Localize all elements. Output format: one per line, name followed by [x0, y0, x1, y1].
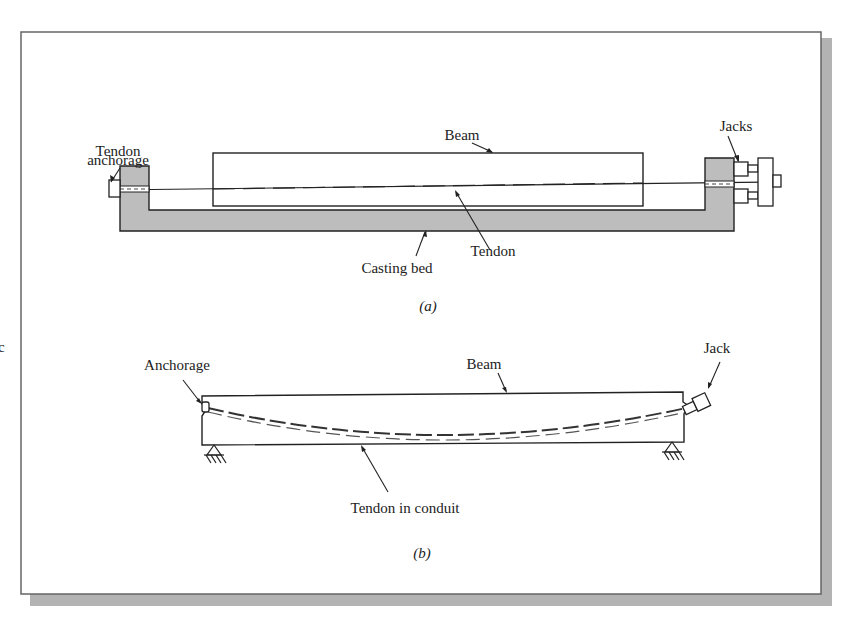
prestressing-figure: c Tendon anchorage	[0, 0, 861, 636]
tendon-anchorage	[109, 180, 120, 197]
label-tendon-anchorage-2: anchorage	[87, 152, 149, 168]
label-jack: Jack	[704, 340, 731, 356]
label-casting-bed: Casting bed	[361, 260, 433, 276]
beam-b	[202, 392, 689, 445]
label-anchorage: Anchorage	[144, 357, 210, 373]
caption-b: (b)	[413, 545, 431, 562]
label-tendon-in-conduit: Tendon in conduit	[351, 500, 461, 516]
beam-a	[213, 153, 643, 206]
label-jacks: Jacks	[720, 118, 753, 134]
margin-letter: c	[0, 339, 5, 355]
label-tendon: Tendon	[471, 243, 516, 259]
label-beam-b: Beam	[467, 356, 502, 372]
anchorage-b	[202, 402, 209, 412]
caption-a: (a)	[419, 298, 437, 315]
label-beam-a: Beam	[445, 127, 480, 143]
